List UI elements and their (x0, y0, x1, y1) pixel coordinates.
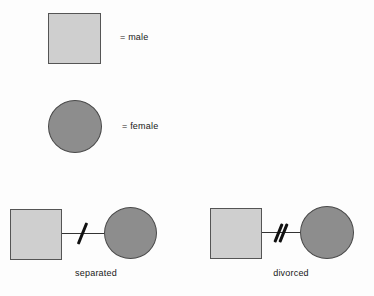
separated-caption: separated (57, 268, 135, 279)
separated-female-symbol (104, 207, 157, 259)
female-legend-label: = female (122, 121, 158, 132)
divorced-male-symbol (210, 208, 262, 259)
divorced-caption: divorced (252, 268, 330, 279)
genogram-legend-figure: = male = female separated divorced (0, 0, 374, 296)
female-symbol (48, 100, 102, 153)
separated-male-symbol (10, 209, 62, 260)
divorced-female-symbol (300, 206, 354, 259)
male-symbol (48, 13, 101, 64)
male-legend-label: = male (120, 32, 148, 43)
